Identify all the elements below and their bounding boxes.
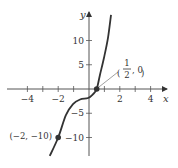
highlighted-point	[55, 135, 61, 141]
point-label-half-zero: ( 1 2 , 0 )	[117, 58, 144, 80]
close-paren: )	[141, 67, 144, 78]
x-tick-label: −2	[52, 94, 65, 104]
point-label-neg2-neg10: (−2, −10)	[9, 131, 52, 141]
y-tick-label: −5	[71, 108, 85, 118]
x-tick-label: −4	[21, 94, 35, 104]
y-tick-label: −10	[65, 133, 84, 143]
y-tick-label: 10	[73, 36, 85, 46]
x-axis-label: x	[163, 93, 169, 104]
fraction-denominator: 2	[124, 70, 129, 80]
open-paren: (	[117, 67, 120, 78]
function-graph: −4−224105−5−10 x y ( 1 2 , 0 ) (−2, −10)	[0, 0, 178, 168]
x-tick-label: 4	[148, 94, 154, 104]
x-tick-label: 2	[117, 94, 123, 104]
highlighted-point	[94, 86, 100, 92]
fraction-numerator: 1	[124, 58, 129, 68]
y-tick-label: 5	[78, 60, 84, 70]
y-axis-label: y	[79, 9, 86, 20]
